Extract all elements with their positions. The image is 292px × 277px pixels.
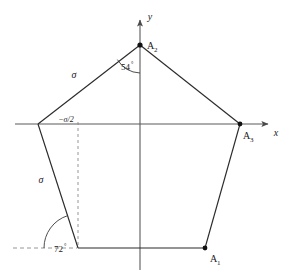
labels-group: x y A 1 A 2 A 3 σ σ 54 °: [39, 11, 279, 267]
pentagon-figure: x y A 1 A 2 A 3 σ σ 54 °: [0, 0, 292, 277]
angle-arcs-group: [44, 60, 140, 248]
x-axis-label: x: [273, 127, 279, 138]
vertex-label-A1: A 1: [210, 253, 221, 267]
axes-group: [15, 20, 268, 270]
vertex-dot-A2: [137, 42, 142, 47]
edge-A3-A2: [140, 45, 240, 124]
angle-label-54-degree-sign: °: [131, 61, 134, 67]
pentagon-edges-group: [38, 45, 240, 248]
edge-A2-A4: [38, 45, 140, 124]
pentagon-diagram-svg: x y A 1 A 2 A 3 σ σ 54 °: [0, 0, 292, 277]
vertex-dots-group: [137, 42, 242, 250]
angle-label-72-value: 72: [54, 244, 63, 254]
vertex-label-A1-subscript: 1: [217, 259, 221, 267]
vertex-dot-A3: [238, 122, 243, 127]
angle-label-54-value: 54: [121, 62, 131, 72]
edge-A1-A3: [205, 124, 240, 248]
side-label-sigma-upper-left: σ: [72, 69, 78, 80]
vertex-label-A3-subscript: 3: [250, 136, 254, 144]
dashed-guides-group: [13, 122, 78, 248]
edge-A4-A5: [38, 124, 78, 248]
angle-label-54: 54 °: [121, 61, 134, 72]
vertex-label-A3: A 3: [243, 130, 254, 144]
coordinate-label-neg-sigma-over-2: −σ/2: [58, 115, 74, 124]
angle-label-72-degree-sign: °: [64, 243, 67, 249]
vertex-dot-A1: [203, 246, 208, 251]
side-label-sigma-lower-left: σ: [39, 174, 45, 185]
angle-label-72: 72 °: [54, 243, 67, 254]
vertex-label-A2-subscript: 2: [154, 46, 158, 54]
y-axis-label: y: [147, 11, 153, 22]
